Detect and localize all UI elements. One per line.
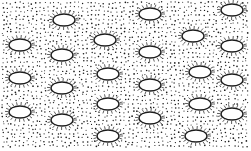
stipple-dot: [216, 115, 217, 116]
stipple-dot: [27, 94, 28, 95]
stipple-dot: [184, 56, 185, 57]
stipple-dot: [245, 16, 246, 17]
stipple-dot: [159, 2, 160, 3]
stipple-dot: [188, 52, 190, 54]
stipple-dot: [207, 11, 209, 13]
stipple-dot: [15, 19, 17, 21]
stipple-dot: [66, 70, 68, 72]
stipple-dot: [82, 111, 83, 112]
stipple-dot: [170, 18, 171, 19]
stipple-dot: [117, 16, 118, 17]
stipple-dot: [98, 64, 99, 65]
stipple-dot: [3, 95, 4, 96]
stipple-dot: [242, 61, 243, 62]
stipple-dot: [116, 145, 118, 147]
stipple-dot: [190, 146, 191, 147]
stipple-dot: [221, 136, 223, 138]
stipple-dot: [93, 108, 94, 109]
stipple-dot: [32, 56, 34, 58]
stipple-dot: [166, 32, 167, 33]
stipple-dot: [2, 15, 3, 16]
stipple-dot: [146, 40, 147, 41]
stipple-dot: [70, 6, 71, 7]
stipple-dot: [123, 102, 124, 103]
stipple-dot: [120, 41, 121, 42]
stipple-dot: [137, 96, 138, 97]
stipple-dot: [190, 2, 191, 3]
stipple-dot: [171, 100, 172, 101]
stipple-dot: [241, 69, 242, 70]
stipple-dot: [3, 24, 5, 26]
stipple-dot: [87, 86, 89, 88]
stipple-dot: [234, 140, 236, 142]
stipple-dot: [233, 128, 235, 130]
stipple-dot: [44, 111, 45, 112]
stipple-dot: [238, 142, 239, 143]
stipple-dot: [169, 27, 170, 28]
stipple-dot: [3, 121, 4, 122]
stipple-dot: [125, 43, 126, 44]
stipple-dot: [119, 112, 120, 113]
stipple-dot: [41, 53, 42, 54]
stipple-dot: [78, 12, 79, 13]
stipple-dot: [205, 121, 206, 122]
stipple-dot: [108, 3, 110, 5]
stipple-dot: [179, 66, 180, 67]
stipple-dot: [108, 27, 109, 28]
stipple-dot: [6, 39, 7, 40]
stipple-dot: [119, 36, 120, 37]
lash-ellipse: [5, 102, 35, 122]
stipple-dot: [52, 10, 54, 12]
stipple-dot: [3, 49, 4, 50]
stipple-dot: [246, 133, 247, 134]
stipple-dot: [77, 142, 78, 143]
stipple-dot: [2, 146, 3, 147]
stipple-dot: [120, 52, 121, 53]
stipple-dot: [115, 116, 117, 118]
stipple-dot: [178, 100, 179, 101]
stipple-dot: [157, 65, 158, 66]
stipple-dot: [171, 35, 172, 36]
stipple-dot: [90, 18, 92, 20]
stipple-dot: [132, 133, 134, 135]
stipple-dot: [16, 7, 17, 8]
stipple-dot: [174, 129, 175, 130]
stipple-dot: [124, 116, 125, 117]
stipple-dot: [81, 24, 83, 26]
stipple-dot: [129, 48, 130, 49]
stipple-dot: [41, 85, 42, 86]
stipple-dot: [153, 41, 154, 42]
stipple-dot: [133, 110, 135, 112]
stipple-dot: [148, 146, 150, 148]
stipple-dot: [81, 79, 83, 81]
stipple-dot: [166, 136, 167, 137]
stipple-dot: [207, 56, 209, 58]
stipple-dot: [74, 99, 75, 100]
stipple-dot: [166, 108, 167, 109]
stipple-dot: [74, 145, 75, 146]
stipple-dot: [125, 108, 126, 109]
stipple-dot: [112, 49, 114, 51]
stipple-dot: [36, 41, 37, 42]
stipple-dot: [28, 2, 29, 3]
stipple-dot: [60, 39, 62, 41]
stipple-dot: [113, 120, 114, 121]
stipple-dot: [81, 7, 82, 8]
stipple-dot: [132, 142, 133, 143]
stipple-dot: [161, 27, 162, 28]
stipple-dot: [32, 129, 33, 130]
stipple-dot: [241, 94, 242, 95]
stipple-dot: [212, 27, 213, 28]
stipple-dot: [245, 106, 246, 107]
stipple-dot: [95, 18, 96, 19]
stipple-dot: [94, 90, 95, 91]
stipple-dot: [1, 107, 3, 109]
stipple-dot: [51, 141, 53, 143]
stipple-dot: [40, 75, 41, 76]
stipple-dot: [121, 91, 122, 92]
stipple-dot: [36, 74, 38, 76]
stipple-dot: [200, 10, 201, 11]
stipple-dot: [53, 102, 54, 103]
stipple-dot: [77, 87, 79, 89]
stipple-dot: [49, 145, 50, 146]
